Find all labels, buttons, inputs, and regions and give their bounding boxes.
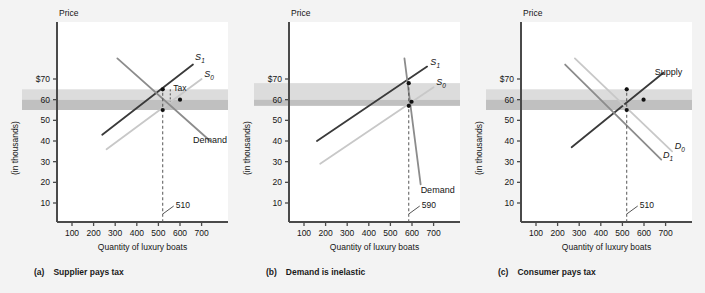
- y-tick-label: 50: [273, 115, 283, 125]
- plot-b: $70605040302010100200300400500600700S1S0…: [232, 0, 467, 293]
- data-point: [407, 81, 411, 85]
- y-tick-label: 20: [273, 177, 283, 187]
- panel-caption: (b)Demand is inelastic: [266, 267, 365, 277]
- y-axis-units: (in thousands): [474, 121, 484, 175]
- data-point: [625, 87, 629, 91]
- x-tick-label: 600: [173, 228, 187, 238]
- x-tick-label: 200: [87, 228, 101, 238]
- panel-caption-letter: (a): [34, 267, 44, 277]
- y-tick-label: 30: [273, 157, 283, 167]
- plot-background: [521, 22, 692, 222]
- panel-caption-letter: (b): [266, 267, 277, 277]
- panel-demand-is-inelastic: $70605040302010100200300400500600700S1S0…: [232, 0, 467, 293]
- quantity-marker-label: 510: [176, 200, 190, 210]
- x-tick-label: 200: [319, 228, 333, 238]
- x-tick-label: 100: [529, 228, 543, 238]
- panel-caption-text: Consumer pays tax: [517, 267, 595, 277]
- quantity-marker-label: 590: [422, 200, 436, 210]
- curve-label-demand: Demand: [193, 135, 227, 145]
- data-point: [161, 87, 165, 91]
- x-tick-label: 400: [362, 228, 376, 238]
- tax-label: Tax: [173, 83, 187, 93]
- y-tick-label: $70: [36, 74, 50, 84]
- y-tick-label: 10: [273, 198, 283, 208]
- panel-supplier-pays-tax: $70605040302010100200300400500600700S1S0…: [0, 0, 235, 293]
- x-tick-label: 100: [297, 228, 311, 238]
- y-tick-label: $70: [268, 74, 282, 84]
- economics-tax-incidence-figure: $70605040302010100200300400500600700S1S0…: [0, 0, 705, 293]
- panel-consumer-pays-tax: $70605040302010100200300400500600700Supp…: [464, 0, 699, 293]
- plot-c: $70605040302010100200300400500600700Supp…: [464, 0, 699, 293]
- price-band-light: [22, 89, 228, 99]
- data-point: [409, 100, 413, 104]
- x-tick-label: 600: [405, 228, 419, 238]
- quantity-marker-label: 510: [640, 200, 654, 210]
- x-tick-label: 500: [615, 228, 629, 238]
- x-tick-label: 500: [151, 228, 165, 238]
- y-axis-units: (in thousands): [242, 121, 252, 175]
- y-tick-label: 40: [505, 136, 515, 146]
- x-tick-label: 700: [659, 228, 673, 238]
- x-axis-title: Quantity of luxury boats: [98, 242, 187, 252]
- curve-label-demand: Demand: [421, 185, 455, 195]
- y-tick-label: 30: [505, 157, 515, 167]
- x-tick-label: 700: [195, 228, 209, 238]
- data-point: [407, 104, 411, 108]
- y-axis-units: (in thousands): [10, 121, 20, 175]
- y-axis-title: Price: [523, 8, 543, 18]
- panel-caption: (c)Consumer pays tax: [498, 267, 596, 277]
- y-axis-title: Price: [59, 8, 79, 18]
- x-tick-label: 600: [637, 228, 651, 238]
- x-tick-label: 300: [572, 228, 586, 238]
- y-tick-label: 40: [273, 136, 283, 146]
- y-tick-label: 50: [505, 115, 515, 125]
- x-tick-label: 200: [551, 228, 565, 238]
- price-band-light: [254, 83, 460, 100]
- y-tick-label: 60: [41, 95, 51, 105]
- y-tick-label: $70: [500, 74, 514, 84]
- x-tick-label: 700: [427, 228, 441, 238]
- curve-label-supply: Supply: [655, 67, 683, 77]
- y-axis-title: Price: [291, 8, 311, 18]
- data-point: [625, 108, 629, 112]
- x-tick-label: 300: [340, 228, 354, 238]
- panel-caption-text: Demand is inelastic: [286, 267, 365, 277]
- y-tick-label: 50: [41, 115, 51, 125]
- x-tick-label: 300: [108, 228, 122, 238]
- y-tick-label: 60: [505, 95, 515, 105]
- panel-caption: (a)Supplier pays tax: [34, 267, 124, 277]
- y-tick-label: 60: [273, 95, 283, 105]
- y-tick-label: 10: [505, 198, 515, 208]
- price-band-light: [486, 89, 692, 99]
- price-band-dark: [254, 100, 460, 106]
- panel-caption-text: Supplier pays tax: [53, 267, 123, 277]
- data-point: [178, 98, 182, 102]
- x-tick-label: 100: [65, 228, 79, 238]
- x-tick-label: 400: [130, 228, 144, 238]
- y-tick-label: 40: [41, 136, 51, 146]
- y-tick-label: 20: [505, 177, 515, 187]
- price-band-dark: [486, 100, 692, 110]
- plot-a: $70605040302010100200300400500600700S1S0…: [0, 0, 235, 293]
- data-point: [641, 98, 645, 102]
- data-point: [161, 108, 165, 112]
- y-tick-label: 10: [41, 198, 51, 208]
- panel-caption-letter: (c): [498, 267, 508, 277]
- x-tick-label: 500: [383, 228, 397, 238]
- price-band-dark: [22, 100, 228, 110]
- x-axis-title: Quantity of luxury boats: [562, 242, 651, 252]
- y-tick-label: 20: [41, 177, 51, 187]
- y-tick-label: 30: [41, 157, 51, 167]
- x-axis-title: Quantity of luxury boats: [330, 242, 419, 252]
- x-tick-label: 400: [594, 228, 608, 238]
